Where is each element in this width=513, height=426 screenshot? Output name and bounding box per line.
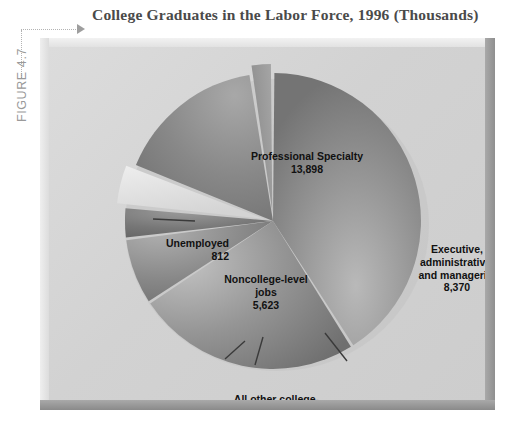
figure-caption-group: FIGURE 4.7 (0, 18, 34, 178)
slice-label-professional-specialty: Professional Specialty 13,898 (227, 150, 387, 176)
slice-label-all-other-college-level-jobs: All other college- level jobs 1,519 (159, 393, 319, 400)
frame-bevel-top (40, 38, 495, 47)
page-title: College Graduates in the Labor Force, 19… (92, 6, 479, 24)
figure-number-label: FIGURE 4.7 (15, 25, 29, 145)
slice-label-noncollege-level-jobs: Noncollege-level jobs 5,623 (201, 273, 331, 311)
dotted-leader-horizontal (21, 29, 78, 30)
frame-bevel-left (40, 38, 49, 410)
arrow-right-icon (77, 24, 85, 34)
slice-label-marketing-and-sales: Marketing and sales 2,493 (389, 399, 485, 400)
slice-label-unemployed: Unemployed 812 (97, 237, 229, 263)
pie-chart (49, 47, 485, 400)
chart-panel: Professional Specialty 13,898 Executive,… (49, 47, 485, 400)
frame-bevel-right (485, 38, 495, 410)
chart-frame: Professional Specialty 13,898 Executive,… (40, 38, 495, 410)
frame-bevel-bottom (40, 400, 495, 410)
slice-label-executive: Executive, administrative, and manageria… (387, 243, 485, 294)
